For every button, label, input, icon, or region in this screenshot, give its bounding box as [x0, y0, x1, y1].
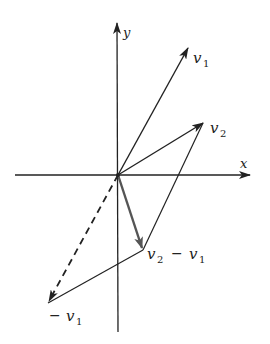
svg-text:1: 1: [76, 316, 82, 327]
svg-text:v: v: [210, 119, 219, 137]
svg-text:−: −: [171, 245, 183, 261]
svg-text:1: 1: [203, 58, 209, 69]
svg-text:−: −: [49, 307, 61, 323]
label-v2-minus-v1: v 2 − v 1: [147, 245, 205, 265]
vector-v1: [118, 48, 188, 175]
svg-text:2: 2: [220, 128, 226, 139]
edge-diff-to-neg-v1: [48, 250, 143, 303]
svg-text:v: v: [66, 307, 75, 325]
origin-point: [116, 173, 120, 177]
svg-text:1: 1: [199, 254, 205, 265]
svg-text:2: 2: [157, 254, 163, 265]
vector-v2-minus-v1: [118, 175, 142, 248]
svg-text:v: v: [147, 245, 156, 263]
vector-diagram: y x v 1 v 2 v 2 − v 1 − v 1: [0, 0, 270, 344]
label-neg-v1: − v 1: [49, 307, 82, 327]
y-axis-label: y: [122, 25, 131, 40]
svg-text:v: v: [189, 245, 198, 263]
x-axis-label: x: [240, 156, 248, 171]
vector-neg-v1: [49, 175, 118, 301]
svg-text:v: v: [193, 49, 202, 67]
label-v2: v 2: [210, 119, 226, 139]
label-v1: v 1: [193, 49, 209, 69]
